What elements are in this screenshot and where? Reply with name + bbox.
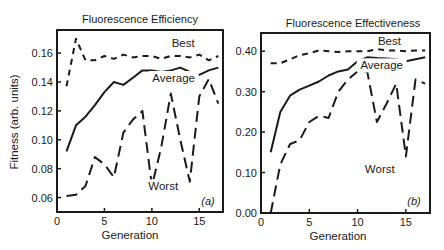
x-tick-label: 15	[400, 216, 412, 228]
y-tick-label: 0.08	[32, 163, 53, 175]
series-label-worst: Worst	[365, 163, 396, 175]
series-lines	[271, 49, 426, 213]
y-tick-label: 0.16	[32, 47, 53, 59]
series-label-best: Best	[378, 35, 402, 47]
y-tick-label: 0.00	[236, 207, 257, 219]
chart-panel-fluorescence-efficiency: Fluorescence Efficiency 0.060.080.100.12…	[8, 13, 223, 241]
x-axis-ticks: 051015	[54, 208, 205, 227]
y-axis-label: Fitness (arb. units)	[8, 74, 20, 169]
series-label-best: Best	[172, 37, 196, 49]
x-tick-label: 5	[306, 216, 312, 228]
y-tick-label: 0.12	[32, 105, 53, 117]
series-lines	[67, 39, 219, 196]
y-tick-label: 0.30	[236, 86, 257, 98]
chart-panel-fluorescence-effectiveness: Fluorescence Effectiveness 0.000.100.200…	[236, 17, 430, 242]
x-axis-label: Generation	[102, 229, 159, 241]
figure: Fluorescence Efficiency 0.060.080.100.12…	[0, 0, 444, 250]
chart-title: Fluorescence Efficiency	[82, 13, 198, 25]
panel-label: (a)	[201, 195, 215, 207]
x-tick-label: 15	[193, 215, 205, 227]
x-tick-label: 10	[146, 215, 158, 227]
chart-title: Fluorescence Effectiveness	[286, 17, 421, 29]
y-tick-label: 0.10	[236, 167, 257, 179]
panel-label: (b)	[407, 195, 421, 207]
y-tick-label: 0.20	[236, 126, 257, 138]
x-tick-label: 10	[351, 216, 363, 228]
series-label-average: Average	[360, 59, 403, 71]
y-tick-label: 0.10	[32, 134, 53, 146]
series-label-worst: Worst	[148, 180, 179, 192]
y-tick-label: 0.06	[32, 192, 53, 204]
y-tick-label: 0.14	[32, 76, 53, 88]
x-tick-label: 0	[258, 216, 264, 228]
x-tick-label: 0	[54, 215, 60, 227]
x-tick-label: 5	[101, 215, 107, 227]
x-axis-ticks: 051015	[258, 209, 412, 228]
series-label-average: Average	[152, 72, 195, 84]
x-axis-label: Generation	[310, 230, 367, 242]
series-line-worst	[67, 79, 219, 196]
y-tick-label: 0.40	[236, 45, 257, 57]
